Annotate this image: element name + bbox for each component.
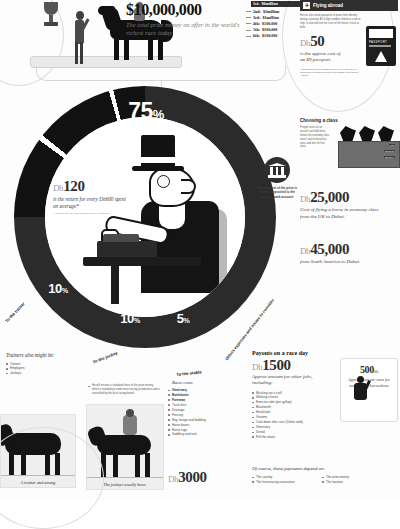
prize-row-2: 2nd: $2million	[246, 10, 308, 14]
payouts-jobs-list: Mucking out a stall Walking a horse Exer…	[252, 391, 338, 440]
cost-sa-desc: from South America to Dubai.	[300, 259, 386, 266]
passport-cost-currency: Dh	[300, 38, 310, 48]
list-item: Saddlery and tack	[168, 432, 234, 437]
prize-value: $100,000	[262, 34, 277, 38]
prize-row-4: 4th: $500,000	[246, 22, 308, 26]
plane-icon: ✈	[303, 2, 310, 9]
owner-figure-icon	[70, 8, 92, 58]
cost-uk-amount: 25,000	[310, 189, 349, 205]
trainer-block-title: Trainers also might be:	[6, 352, 82, 359]
depends-title: Of course, these payments depend on:	[252, 466, 400, 471]
prize-place: 6th:	[253, 34, 260, 38]
horseshoe-currency: dh	[374, 369, 378, 374]
groom-figure-icon	[350, 376, 372, 406]
passport-icon: PASSPORT	[366, 26, 396, 66]
prize-row-6: 6th: $100,000	[246, 34, 308, 38]
payouts-subtitle: Approx amount for other jobs, including:	[252, 374, 322, 387]
typewriter-icon	[97, 241, 157, 258]
connector-brace	[36, 66, 286, 81]
desk-leg-shape	[111, 266, 119, 304]
list-item: Jockeys	[6, 371, 82, 376]
bank-deposit-badge: The payment of the prize is directly dep…	[254, 157, 300, 199]
jockey-pct-unit: %	[134, 317, 140, 324]
prize-row-5: 5th: $300,000	[246, 28, 308, 32]
owner-nose-shape	[181, 179, 196, 194]
stable-pct-value: 5	[177, 311, 184, 326]
stable-costs-list: Veterinary Nutritionist Foreman Track fe…	[168, 388, 234, 437]
bank-icon	[264, 157, 290, 183]
prize-place: 2nd:	[253, 10, 261, 14]
choosing-a-class-title: Choosing a class	[300, 118, 398, 123]
cost-uk-desc: Cost of flying a horse in economy class …	[300, 207, 386, 220]
list-item: The taxation	[322, 480, 382, 485]
monocle-icon	[157, 175, 170, 188]
flying-abroad-body: Horses also need passports to prove thei…	[300, 14, 362, 30]
prize-place: 3rd:	[253, 16, 261, 20]
cost-south-america-to-dubai: Dh45,000 from South America to Dubai.	[300, 242, 398, 266]
prize-value: $300,000	[262, 28, 277, 32]
horse-silhouette-icon	[340, 126, 356, 141]
horse-silhouette-icon	[359, 126, 375, 141]
return-note: *A warning from the Thoroughbred Owners'…	[53, 212, 131, 215]
prize-place: 4th:	[253, 22, 260, 26]
flying-abroad-title: Flying abroad	[313, 3, 343, 8]
prize-value: $6million	[261, 2, 277, 6]
choosing-a-class-body: Freight costs for an aircraft can hold t…	[300, 126, 330, 149]
jockey-body-text: He will receive a standard share of the …	[88, 384, 160, 396]
prize-subtitle: The total prize money on offer in the wo…	[126, 21, 256, 37]
flying-abroad-footnote: Applications for equine passports can on…	[300, 68, 362, 77]
horseshoe-amount: 500	[360, 364, 374, 375]
prize-amount: $10,000,000	[126, 2, 256, 18]
prize-row-3: 3rd: $1million	[246, 16, 308, 20]
stable-amount: 3000	[178, 469, 206, 485]
bank-badge-text: The payment of the prize is directly dep…	[254, 186, 300, 199]
depends-column-1: The country The horseracing association	[252, 475, 312, 485]
class-label-business: Business	[384, 150, 395, 152]
return-desc: is the return for every Dh600 spent on a…	[53, 196, 131, 209]
segment-label-stable: To the stable	[176, 369, 202, 377]
payouts-title: Payouts on a race day	[252, 350, 400, 356]
stable-subtitle: Basic costs	[172, 380, 234, 385]
cost-uk-currency: Dh	[300, 194, 310, 204]
trainer-info-block: Trainers also might be: Owners Employers…	[6, 352, 82, 376]
passport-cost-desc: is the approx cost of an ID passport.	[300, 51, 344, 64]
prize-place: 1st:	[253, 2, 259, 6]
payouts-amount: 1500	[262, 357, 290, 373]
return-amount: 120	[63, 178, 84, 194]
prize-headline: $10,000,000 The total prize money on off…	[126, 2, 256, 37]
class-label-first: First	[389, 144, 395, 146]
passport-label: PASSPORT	[369, 40, 387, 44]
depends-column-2: The prize money The taxation	[322, 475, 382, 485]
top-hat-icon	[141, 135, 175, 169]
choosing-a-class-panel: Choosing a class Freight costs for an ai…	[300, 118, 398, 149]
list-item: Pull the mane	[252, 435, 338, 440]
segment-label-jockey: To the jockey	[92, 350, 118, 365]
payouts-panel: Payouts on a race day Dh1500 Approx amou…	[252, 350, 400, 440]
segment-label-trainer: To the trainer	[4, 301, 26, 324]
cost-uk-to-dubai: Dh25,000 Cost of flying a horse in econo…	[300, 190, 398, 220]
owner-typewriter-illustration: Dh120 is the return for every Dh600 spen…	[45, 117, 245, 317]
prize-value: $1million	[263, 16, 279, 20]
horse-silhouette-icon	[378, 126, 394, 141]
stable-total-cost: Dh3000	[168, 470, 207, 485]
stable-info-block: Basic costs Veterinary Nutritionist Fore…	[168, 378, 234, 437]
list-item: The horseracing association	[252, 480, 312, 485]
jockey-info-block: He will receive a standard share of the …	[88, 384, 160, 396]
stable-share: 5%	[166, 312, 200, 325]
prize-breakdown-list: 1st: $6million 2nd: $2million 3rd: $1mil…	[246, 1, 308, 41]
flying-abroad-header: ✈ Flying abroad	[300, 0, 398, 11]
cargo-plane-illustration: First Business Economy	[338, 126, 398, 166]
trainer-pct-unit: %	[62, 287, 68, 294]
stable-currency: Dh	[168, 474, 178, 484]
trainer-pct-value: 10	[48, 281, 62, 296]
cost-sa-amount: 45,000	[310, 241, 349, 257]
stable-pct-unit: %	[184, 317, 190, 324]
passport-cost-amount: 50	[310, 33, 324, 49]
prize-value: $500,000	[262, 22, 277, 26]
payment-dependencies: Of course, these payments depend on: The…	[252, 466, 400, 485]
trainer-roles-list: Owners Employers Jockeys	[6, 362, 82, 377]
payouts-currency: Dh	[252, 362, 262, 372]
trophy-icon	[42, 2, 60, 28]
flying-abroad-panel: ✈ Flying abroad Horses also need passpor…	[300, 0, 398, 77]
